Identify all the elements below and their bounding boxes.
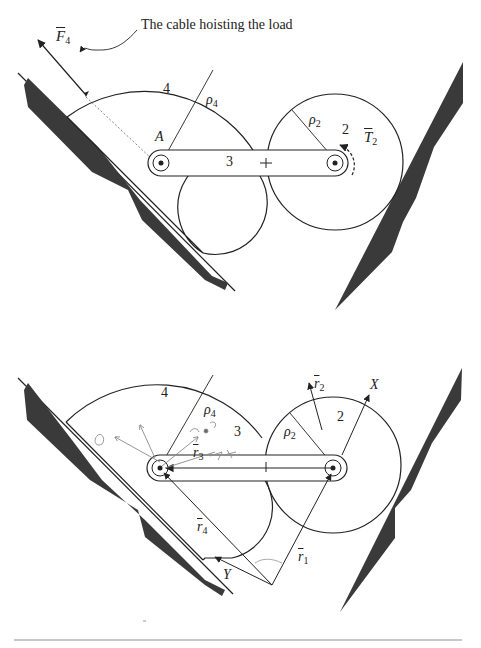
label-rho2-sub: 2: [316, 118, 321, 129]
label-axis-y: Y: [223, 568, 231, 582]
cable-annotation: The cable hoisting the load: [141, 18, 293, 32]
link-3: [148, 150, 348, 176]
label-f4-symbol: F: [56, 28, 65, 44]
mechanism-diagram: [0, 0, 481, 648]
label-r4: r4: [197, 520, 207, 536]
label-rho2: ρ2: [309, 113, 321, 129]
footer-divider: [14, 639, 462, 641]
label-body-2: 2: [342, 123, 349, 137]
label-r2-sub: 2: [319, 382, 324, 393]
label-f4-sub: 4: [65, 35, 70, 46]
label-axis-x: X: [370, 378, 379, 392]
label-body-4-bottom: 4: [161, 386, 168, 400]
label-r3: r3: [193, 446, 203, 462]
label-rho2-bottom-symbol: ρ: [284, 424, 291, 439]
force-f4-arrow: [38, 40, 85, 94]
vector-r4: [164, 473, 272, 585]
label-rho4-bottom: ρ4: [204, 403, 216, 419]
label-rho2-bottom: ρ2: [284, 425, 296, 441]
label-t2-sub: 2: [372, 136, 377, 147]
bottom-figure: [18, 368, 462, 621]
axis-x: [342, 395, 369, 455]
label-body-3-bottom: 3: [234, 425, 241, 439]
label-body-3: 3: [226, 155, 233, 169]
caption-cutoff: · · · · · · · · · · ·: [82, 643, 177, 648]
label-r1-sub: 1: [303, 555, 308, 566]
label-rho4-bottom-sub: 4: [211, 408, 216, 419]
right-ground-bottom: [340, 368, 462, 612]
label-rho2-symbol: ρ: [309, 112, 316, 127]
annotation-leader: [80, 30, 137, 52]
label-rho4-symbol: ρ: [206, 92, 213, 107]
label-r1: r1: [298, 550, 308, 566]
label-f4: F4: [56, 29, 70, 46]
label-rho4: ρ4: [206, 93, 218, 109]
label-rho2-bottom-sub: 2: [291, 430, 296, 441]
label-r3-sub: 3: [198, 451, 203, 462]
label-body-2-bottom: 2: [337, 410, 344, 424]
label-t2: T2: [364, 130, 377, 147]
label-r2: r2: [314, 377, 324, 393]
label-body-4: 4: [163, 82, 170, 96]
left-ground-bottom: [18, 378, 233, 596]
vector-r1: [272, 474, 331, 585]
label-rho4-bottom-symbol: ρ: [204, 402, 211, 417]
label-rho4-sub: 4: [213, 98, 218, 109]
label-point-a: A: [155, 130, 164, 144]
label-r4-sub: 4: [202, 525, 207, 536]
top-figure: [18, 30, 463, 310]
